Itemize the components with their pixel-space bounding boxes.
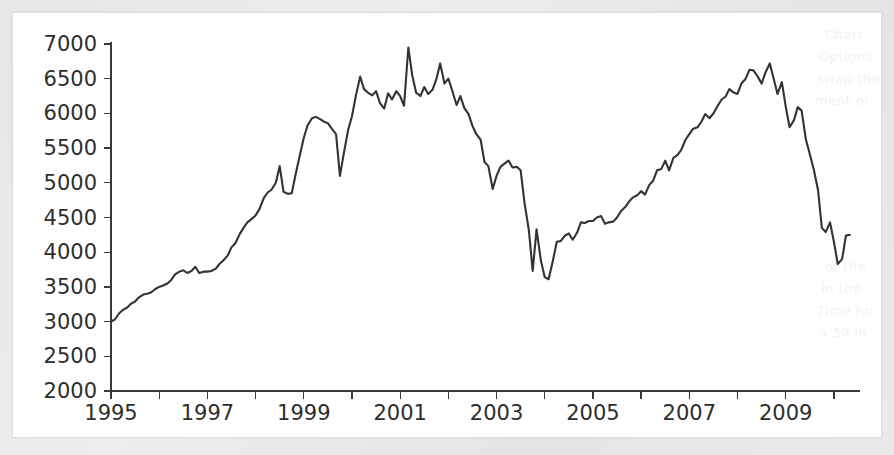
x-tick-label: 2009 (759, 401, 812, 425)
y-tick-label: 3000 (44, 310, 97, 334)
x-tick-label: 1997 (181, 401, 234, 425)
x-tick-label: 2003 (470, 401, 523, 425)
y-tick-label: 6000 (44, 101, 97, 125)
y-tick-label: 5500 (44, 136, 97, 160)
x-axis-tick-labels: 19951997199920012003200520072009 (84, 401, 812, 425)
index-series-line (111, 47, 850, 321)
x-tick-label: 2005 (566, 401, 619, 425)
y-tick-label: 5000 (44, 171, 97, 195)
y-tick-label: 2000 (44, 379, 97, 403)
x-tick-label: 1995 (84, 401, 137, 425)
figure-card: ChartOptionsswap thement ofof thein theT… (12, 12, 882, 438)
y-tick-label: 3500 (44, 275, 97, 299)
x-axis-ticks (111, 391, 834, 399)
y-tick-label: 4000 (44, 240, 97, 264)
y-tick-label: 7000 (44, 32, 97, 56)
x-tick-label: 2007 (663, 401, 716, 425)
y-axis-ticks (104, 44, 111, 391)
line-chart: 2000250030003500400045005000550060006500… (13, 13, 881, 437)
y-tick-label: 4500 (44, 206, 97, 230)
y-tick-label: 6500 (44, 67, 97, 91)
x-tick-label: 2001 (373, 401, 426, 425)
y-tick-label: 2500 (44, 344, 97, 368)
x-tick-label: 1999 (277, 401, 330, 425)
y-axis-tick-labels: 2000250030003500400045005000550060006500… (44, 32, 97, 403)
